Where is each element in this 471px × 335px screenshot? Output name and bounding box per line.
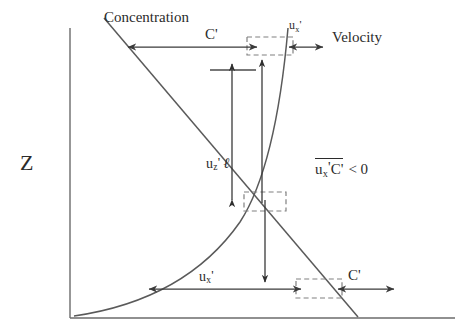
flux-c-prime: C' (331, 161, 344, 177)
mixing-length-label: uz'ℓ (206, 155, 229, 173)
u-x-prime-top-prime: ' (299, 18, 301, 30)
u-x-prime-bottom-label: ux' (199, 268, 214, 286)
c-prime-bottom-label: C' (348, 268, 361, 283)
axis-label-z: Z (20, 152, 33, 174)
flux-relation: < 0 (343, 161, 368, 177)
figure-canvas: Z Concentration Velocity C' C' ux' ux' u… (0, 0, 471, 335)
u-x-prime-top-label: ux' (289, 19, 302, 34)
velocity-curve-label: Velocity (332, 30, 382, 45)
vertical-displacement-arrows (232, 60, 265, 282)
velocity-curve (74, 28, 288, 316)
flux-u-base: u (315, 161, 323, 177)
diagram-svg (0, 0, 471, 335)
u-z-prime-base: u (206, 156, 213, 171)
flux-overline-group: ux'C' (315, 158, 343, 179)
turbulent-flux-expression: ux'C'< 0 (315, 158, 368, 179)
u-x-prime-bottom-prime: ' (211, 267, 214, 282)
concentration-curve-label: Concentration (104, 10, 189, 25)
c-prime-top-label: C' (205, 27, 218, 42)
flux-u-subscript: x (323, 168, 328, 179)
mixing-length-symbol: ℓ (220, 154, 229, 171)
u-x-prime-bottom-base: u (199, 269, 206, 284)
bottom-parcel-box (296, 279, 342, 298)
